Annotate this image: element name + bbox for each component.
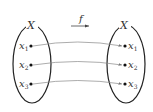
svg-text:x1: x1 — [19, 40, 28, 52]
function-arrow: f — [71, 13, 89, 26]
svg-text:x3: x3 — [128, 78, 138, 90]
codomain-set-label: X — [119, 19, 129, 32]
svg-text:x1: x1 — [128, 40, 137, 52]
mapping-arrow-x2 — [33, 62, 122, 66]
svg-text:x2: x2 — [19, 59, 29, 71]
codomain-element-x1: x1 — [123, 40, 137, 52]
point-icon — [123, 63, 126, 66]
codomain-element-x3: x3 — [123, 78, 137, 90]
domain-element-x3: x3 — [19, 78, 33, 90]
domain-element-x1: x1 — [19, 40, 33, 52]
domain-set: X x1 x2 x3 — [13, 19, 51, 103]
point-icon — [29, 44, 32, 47]
function-label: f — [78, 13, 85, 24]
point-icon — [123, 82, 126, 85]
svg-text:x2: x2 — [128, 59, 138, 71]
codomain-element-x2: x2 — [123, 59, 137, 71]
domain-set-label: X — [26, 19, 36, 32]
svg-text:x3: x3 — [19, 78, 29, 90]
point-icon — [29, 82, 32, 85]
domain-element-x2: x2 — [19, 59, 33, 71]
codomain-set: X x1 x2 x3 — [107, 19, 145, 103]
point-icon — [123, 44, 126, 47]
point-icon — [29, 63, 32, 66]
function-diagram: f X x1 x2 x3 X x1 x2 — [0, 0, 153, 112]
